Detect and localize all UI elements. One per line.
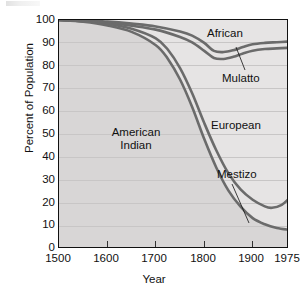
y-tick-label-100: 100 — [29, 14, 55, 24]
y-tick-label-50: 50 — [29, 128, 55, 138]
annotation-european: European — [211, 119, 261, 132]
y-tick-label-60: 60 — [29, 105, 55, 115]
y-tick-label-40: 40 — [29, 151, 55, 161]
y-tick-label-80: 80 — [29, 60, 55, 70]
plot-area: American Indian African Mulatto European… — [58, 19, 288, 248]
y-tick-label-20: 20 — [29, 197, 55, 207]
y-tick-label-10: 10 — [29, 219, 55, 229]
x-tick-label-1700: 1700 — [132, 252, 176, 264]
y-tick-label-0: 0 — [29, 242, 55, 252]
x-tick-label-1500: 1500 — [36, 252, 80, 264]
top-crop-artifact — [6, 1, 40, 6]
annotation-mestizo: Mestizo — [217, 168, 257, 181]
x-axis-title: Year — [0, 273, 308, 285]
y-tick-label-30: 30 — [29, 174, 55, 184]
y-tick-label-70: 70 — [29, 82, 55, 92]
x-tick-label-1600: 1600 — [84, 252, 128, 264]
annotation-mulatto: Mulatto — [222, 72, 260, 85]
annotation-american-indian-line2: Indian — [97, 139, 175, 152]
annotation-african: African — [207, 27, 243, 40]
x-tick-label-1800: 1800 — [181, 252, 225, 264]
x-tick-label-1975: 1975 — [265, 252, 308, 264]
chart-figure: Percent of Population 100 90 80 70 60 50… — [0, 0, 308, 298]
annotation-american-indian: American Indian — [97, 126, 175, 152]
annotation-american-indian-line1: American — [97, 126, 175, 139]
y-tick-label-90: 90 — [29, 37, 55, 47]
